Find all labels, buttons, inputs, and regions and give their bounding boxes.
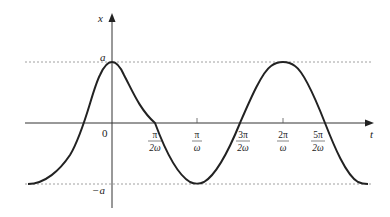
svg-text:π: π	[153, 130, 158, 140]
svg-text:5π: 5π	[313, 130, 323, 140]
svg-text:2ω: 2ω	[149, 143, 161, 153]
svg-text:ω: ω	[194, 143, 201, 153]
svg-text:3π: 3π	[238, 130, 248, 140]
tick-label-2pi-w: 2π ω	[277, 130, 289, 153]
svg-text:π: π	[195, 130, 200, 140]
tick-label-3pi-2w: 3π 2ω	[236, 130, 250, 153]
amplitude-label-top: a	[100, 51, 106, 63]
tick-label-5pi-2w: 5π 2ω	[311, 130, 325, 153]
t-axis-arrow-icon	[365, 120, 374, 127]
svg-text:2ω: 2ω	[312, 143, 324, 153]
cosine-diagram: x t 0 a −a π 2ω π ω 3π 2ω 2π ω 5π 2ω	[0, 0, 390, 217]
t-axis-label: t	[370, 128, 374, 140]
svg-text:2π: 2π	[278, 130, 288, 140]
amplitude-label-bottom: −a	[92, 184, 105, 196]
svg-text:ω: ω	[280, 143, 287, 153]
svg-text:2ω: 2ω	[237, 143, 249, 153]
origin-label: 0	[102, 127, 108, 139]
x-axis-arrow-icon	[109, 13, 116, 22]
x-axis-label: x	[97, 12, 103, 24]
tick-label-pi-w: π ω	[192, 130, 202, 153]
